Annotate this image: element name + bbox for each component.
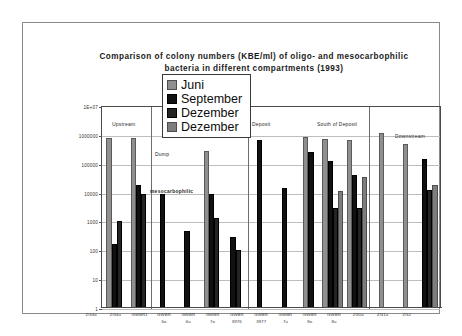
bar-group [321,107,345,308]
plot-area: 1E+071000000100000100001000100101 Upstre… [101,106,441,308]
legend-label: Dezember [181,107,239,120]
y-axis-tick-label: 10000 [84,191,98,196]
bar-groups [102,107,440,308]
legend-item: Juni [167,78,246,92]
legend-label: Juni [181,79,204,92]
chart-title-line-2: bacteria in different compartments (1993… [68,63,440,75]
bar-group [369,107,393,308]
legend-item: Dezember [167,120,246,134]
y-axis-tick-label: 1E+07 [84,105,98,110]
bar [141,194,146,308]
bar [117,221,122,308]
y-axis-tick-mark [99,309,102,310]
bar [184,231,189,308]
bar [160,194,165,308]
legend-swatch [167,80,177,90]
x-axis-line [101,307,442,308]
legend-swatch [167,122,177,132]
bar-group [272,107,296,308]
legend-item: September [167,92,246,106]
bar [379,133,384,308]
bar-group [296,107,320,308]
bar [362,177,367,308]
bar [214,218,219,308]
bar [403,144,408,308]
bar [308,152,313,308]
y-axis-tick-label: 10 [92,278,98,283]
bar [432,185,437,308]
legend-swatch [167,94,177,104]
gridline [102,309,440,310]
y-axis-tick-label: 100 [90,249,98,254]
chart-title-line-1: Comparison of colony numbers (KBE/ml) of… [68,51,440,63]
x-axis-label: ZG2 [392,311,422,318]
x-axis-label-line: 8u [319,318,349,325]
x-axis-label-line: ZG2 [392,311,422,318]
bar [338,191,343,308]
bar [282,188,287,308]
chart-frame: Comparison of colony numbers (KBE/ml) of… [22,22,440,314]
legend-swatch [167,108,177,118]
legend-item: Dezember [167,106,246,120]
chart-title: Comparison of colony numbers (KBE/ml) of… [68,51,440,74]
y-axis-tick-label: 1000 [87,220,98,225]
bar-group [393,107,417,308]
bar-group [102,107,126,308]
bar [236,250,241,308]
bar-group [126,107,150,308]
chart-legend: JuniSeptemberDezemberDezember [162,74,251,138]
legend-label: Dezember [181,121,239,134]
chart-image: Comparison of colony numbers (KBE/ml) of… [0,0,462,336]
y-axis-tick-label: 100000 [81,162,98,167]
bar [257,140,262,308]
bar-group [248,107,272,308]
legend-label: September [181,93,242,106]
y-axis-tick-label: 1000000 [79,133,98,138]
bar-group [345,107,369,308]
bar-group [418,107,442,308]
